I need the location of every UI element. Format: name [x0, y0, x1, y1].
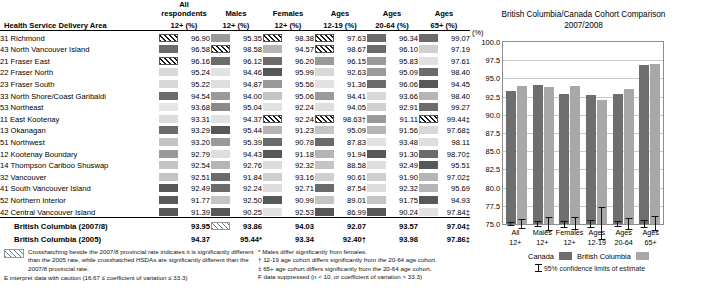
table-cell-value: 99.44‡ — [418, 112, 470, 124]
rate-swatch-icon — [315, 57, 334, 65]
chart-bar-group — [530, 42, 557, 224]
rate-swatch-icon — [211, 92, 230, 100]
rate-swatch-icon — [263, 184, 282, 192]
x-tick-line1: Ages — [637, 228, 664, 238]
table-cell-value: 95.22 — [158, 77, 210, 89]
rate-value: 92.24 — [285, 103, 314, 112]
table-cell-value: 98.63† — [314, 112, 366, 124]
rate-value: 95.56 — [285, 80, 314, 89]
table-cell-value: 95.35 — [210, 31, 262, 43]
rate-swatch-icon — [263, 196, 282, 204]
chart-error-bar — [561, 221, 568, 228]
table-cell-value: 86.99 — [314, 205, 366, 217]
chart-title: British Columbia/Canada Cohort Compariso… — [466, 9, 701, 20]
rate-value: 95.09 — [389, 68, 418, 77]
table-cell-value: 94.05 — [314, 101, 366, 113]
chart-bar — [639, 65, 649, 224]
rate-value: 94.00 — [233, 92, 262, 101]
table-cell-value: 95.24 — [158, 66, 210, 78]
table-cell-value: 97.02‡ — [418, 170, 470, 182]
table-cell-value: 98.40 — [418, 66, 470, 78]
rate-swatch-icon — [367, 103, 386, 111]
table-cell-value: 97.61 — [418, 54, 470, 66]
chart-error-bar — [507, 222, 514, 226]
rate-swatch-icon — [159, 103, 178, 111]
x-tick-line1: Females — [556, 228, 584, 238]
rate-swatch-icon — [159, 57, 178, 65]
table-cell-value: 95.39 — [210, 135, 262, 147]
rate-swatch-icon — [315, 126, 334, 134]
footnote-right-block: * Males differ significantly from female… — [258, 248, 468, 281]
rate-swatch-icon — [211, 68, 230, 76]
row-area-name: 14 Thompson Cariboo Shuswap — [0, 159, 158, 171]
rate-swatch-icon — [211, 196, 230, 204]
table-cell-value: 95.06 — [262, 89, 314, 101]
x-tick-line1: Ages — [610, 228, 637, 238]
y-tick-label: 90.0 — [470, 111, 500, 120]
rate-value: 93.48 — [389, 138, 418, 147]
header-top-all: All respondents — [158, 0, 210, 18]
rate-value: 93.16 — [285, 173, 314, 182]
table-row: 14 Thompson Cariboo Shuswap92.5492.7692.… — [0, 159, 470, 171]
rate-value: 92.24 — [285, 115, 314, 124]
table-cell-value: 91.30 — [366, 147, 418, 159]
table-cell-value: 96.34 — [366, 31, 418, 43]
rate-value: 96.90 — [181, 34, 210, 43]
rate-value: 95.35 — [233, 34, 262, 43]
rate-swatch-icon — [367, 115, 386, 123]
rate-value: 90.78 — [285, 138, 314, 147]
rate-swatch-icon — [419, 184, 438, 192]
y-tick-label: 97.5 — [470, 56, 500, 65]
rate-swatch-icon — [159, 222, 178, 230]
row-area-name: 53 Northeast — [0, 101, 158, 113]
rate-value: 92.07 — [337, 222, 366, 231]
summary-cell-value: 97.86‡ — [418, 231, 470, 244]
rate-swatch-icon — [263, 57, 282, 65]
row-area-name: 33 North Shore/Coast Garibaldi — [0, 89, 158, 101]
table-row: 13 Okanagan93.2995.4491.2395.0991.5697.6… — [0, 124, 470, 136]
rate-swatch-icon — [315, 34, 334, 42]
rate-swatch-icon — [211, 150, 230, 158]
table-row: 32 Vancouver92.5191.8493.1690.6191.9097.… — [0, 170, 470, 182]
rate-swatch-icon — [211, 208, 230, 216]
rate-value: 90.25 — [233, 208, 262, 217]
chart-bar — [506, 91, 516, 224]
table-cell-value: 91.36 — [314, 77, 366, 89]
table-cell-value: 91.84 — [210, 170, 262, 182]
rate-value: 96.15 — [337, 57, 366, 66]
table-cell-value: 94.93 — [418, 193, 470, 205]
table-cell-value: 93.31 — [158, 112, 210, 124]
rate-value: 96.34 — [389, 34, 418, 43]
rate-swatch-icon — [211, 45, 230, 53]
table-cell-value: 94.46 — [210, 66, 262, 78]
rate-value: 92.32 — [285, 161, 314, 170]
table-cell-value: 92.54 — [158, 159, 210, 171]
rate-value: 92.49 — [389, 161, 418, 170]
rate-swatch-icon — [263, 92, 282, 100]
table-cell-value: 95.04 — [210, 101, 262, 113]
table-cell-value: 95.51 — [418, 159, 470, 171]
rate-swatch-icon — [367, 34, 386, 42]
rate-value: 91.11 — [389, 115, 418, 124]
table-cell-value: 92.76 — [210, 159, 262, 171]
rate-value: 87.54 — [337, 184, 366, 193]
summary-cell-value: 95.44* — [210, 231, 262, 244]
rate-value: 92.91 — [389, 103, 418, 112]
rate-swatch-icon — [211, 115, 230, 123]
rate-swatch-icon — [315, 173, 334, 181]
rate-value: 90.99 — [285, 196, 314, 205]
table-cell-value: 99.07 — [418, 31, 470, 43]
rate-value: 94.43 — [233, 150, 262, 159]
table-cell-value: 87.54 — [314, 182, 366, 194]
rate-value: 95.83 — [389, 57, 418, 66]
hsda-table-panel: All respondents Males Females Ages Ages … — [0, 0, 462, 292]
rate-swatch-icon — [315, 196, 334, 204]
summary-cell-value: 93.34 — [262, 231, 314, 244]
table-cell-value: 94.37 — [210, 112, 262, 124]
rate-value: 98.58 — [233, 45, 262, 54]
chart-error-bar — [534, 221, 541, 227]
rate-value: 96.16 — [181, 57, 210, 66]
table-row: 31 Richmond96.9095.3598.3897.6396.3499.0… — [0, 31, 470, 43]
rate-swatch-icon — [315, 45, 334, 53]
rate-swatch-icon — [159, 92, 178, 100]
